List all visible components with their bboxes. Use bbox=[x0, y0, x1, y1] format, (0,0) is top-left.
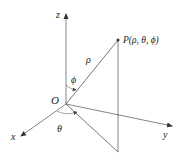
phi-angle-arc bbox=[66, 85, 76, 90]
theta-label: θ bbox=[57, 123, 62, 134]
y-axis bbox=[66, 104, 172, 126]
phi-label: ϕ bbox=[71, 74, 76, 85]
rho-label: ρ bbox=[85, 54, 91, 65]
point-label: P(ρ, θ, ϕ) bbox=[122, 35, 159, 46]
spherical-coordinates-diagram: z x y O P(ρ, θ, ϕ) ρ ϕ θ bbox=[0, 0, 180, 168]
origin-label: O bbox=[51, 94, 59, 106]
z-axis-label: z bbox=[55, 9, 60, 20]
rho-segment bbox=[66, 40, 118, 104]
x-axis-label: x bbox=[10, 131, 16, 142]
point-p bbox=[117, 39, 120, 42]
y-axis-label: y bbox=[162, 129, 168, 140]
xy-projection-segment bbox=[66, 104, 118, 152]
